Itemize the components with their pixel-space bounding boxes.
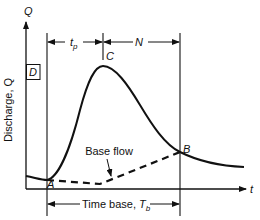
- y-axis-label: Discharge, Q: [2, 77, 14, 142]
- tp-label: tp: [70, 36, 78, 51]
- hydrograph-curve: [26, 66, 244, 180]
- x-axis-symbol: t: [250, 183, 254, 195]
- point-c-label: C: [106, 50, 114, 62]
- y-axis-symbol: Q: [24, 5, 33, 17]
- d-box-label: D: [29, 66, 37, 78]
- n-label: N: [135, 36, 143, 48]
- base-flow-label: Base flow: [85, 145, 133, 157]
- point-a-label: A: [46, 178, 54, 190]
- hydrograph-diagram: Q t Discharge, Q D tp N Base flow A C B …: [0, 0, 260, 220]
- time-base-label: Time base, Tb: [82, 198, 151, 213]
- base-flow-pointer: [107, 159, 111, 176]
- point-b-label: B: [183, 143, 190, 155]
